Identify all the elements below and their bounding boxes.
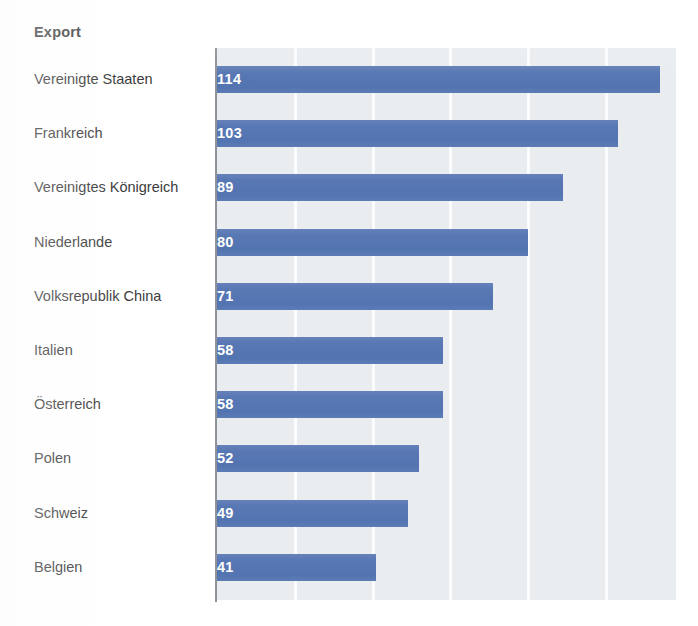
bar-value-label: 71: [217, 283, 493, 310]
bar-value-label: 58: [217, 391, 443, 418]
category-label: Belgien: [34, 554, 210, 581]
bar-row[interactable]: 80: [217, 229, 676, 256]
bar-row[interactable]: 103: [217, 120, 676, 147]
chart-title: Export: [34, 24, 81, 40]
plot-area: 1141038980715858524941: [217, 48, 676, 600]
category-label: Italien: [34, 337, 210, 364]
bar-row[interactable]: 58: [217, 391, 676, 418]
bar-row[interactable]: 71: [217, 283, 676, 310]
bar-value-label: 103: [217, 120, 618, 147]
category-label: Niederlande: [34, 229, 210, 256]
category-label: Österreich: [34, 391, 210, 418]
bar-value-label: 49: [217, 500, 408, 527]
bar-value-label: 89: [217, 174, 563, 201]
category-label: Schweiz: [34, 500, 210, 527]
bar-row[interactable]: 52: [217, 445, 676, 472]
category-label: Polen: [34, 445, 210, 472]
category-label: Vereinigte Staaten: [34, 66, 210, 93]
category-label: Vereinigtes Königreich: [34, 174, 210, 201]
bar-row[interactable]: 49: [217, 500, 676, 527]
bar-row[interactable]: 58: [217, 337, 676, 364]
bar-value-label: 52: [217, 445, 419, 472]
bar-row[interactable]: 89: [217, 174, 676, 201]
bar-value-label: 58: [217, 337, 443, 364]
bar-value-label: 114: [217, 66, 660, 93]
category-axis-line: [215, 48, 217, 602]
bar-row[interactable]: 41: [217, 554, 676, 581]
category-label: Volksrepublik China: [34, 283, 210, 310]
bar-value-label: 41: [217, 554, 376, 581]
bar-row[interactable]: 114: [217, 66, 676, 93]
category-label: Frankreich: [34, 120, 210, 147]
bar-value-label: 80: [217, 229, 528, 256]
bar-chart: Export 1141038980715858524941 Vereinigte…: [0, 0, 698, 626]
